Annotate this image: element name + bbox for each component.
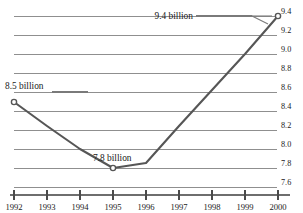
y-tick-label: 8.4 xyxy=(281,102,291,111)
y-tick-label: 8.2 xyxy=(281,121,291,130)
chart-canvas: 9.4 9.2 9.0 8.8 8.6 8.4 8.2 8.0 7.8 7.6 … xyxy=(0,0,303,213)
x-tick-label: 1998 xyxy=(203,202,220,212)
x-tick-label: 2000 xyxy=(269,202,286,212)
cropped-title-remnant xyxy=(0,0,303,2)
y-tick-label: 9.2 xyxy=(281,26,291,35)
y-tick-label: 9.4 xyxy=(281,7,291,16)
x-tick-label: 1994 xyxy=(71,202,89,212)
y-tick-label: 8.0 xyxy=(281,140,291,149)
annotation-minimum-value: 7.8 billion xyxy=(93,153,132,163)
y-tick-label: 8.8 xyxy=(281,64,291,73)
y-tick-label: 7.6 xyxy=(281,178,291,187)
x-axis xyxy=(10,190,290,200)
y-tick-label: 9.0 xyxy=(281,45,291,54)
gridlines xyxy=(14,16,277,187)
x-tick-label: 1997 xyxy=(170,202,188,212)
x-tick-label: 1999 xyxy=(236,202,253,212)
y-tick-label: 7.8 xyxy=(281,159,291,168)
x-tick-label: 1992 xyxy=(5,202,22,212)
x-tick-label: 1993 xyxy=(38,202,55,212)
x-tick-label: 1995 xyxy=(104,202,121,212)
data-marker-1995[interactable] xyxy=(110,165,115,170)
leader-line-end-diagonal xyxy=(252,16,268,24)
y-tick-label: 8.6 xyxy=(281,83,291,92)
y-axis-labels: 9.4 9.2 9.0 8.8 8.6 8.4 8.2 8.0 7.8 7.6 xyxy=(281,7,291,187)
x-axis-labels: 1992 1993 1994 1995 1996 1997 1998 1999 … xyxy=(5,202,286,212)
annotation-start-value: 8.5 billion xyxy=(5,81,44,91)
data-marker-2000[interactable] xyxy=(275,13,280,18)
line-chart: 9.4 9.2 9.0 8.8 8.6 8.4 8.2 8.0 7.8 7.6 … xyxy=(0,0,303,213)
annotation-end-value: 9.4 billion xyxy=(154,11,193,21)
data-marker-1992[interactable] xyxy=(11,99,16,104)
x-tick-label: 1996 xyxy=(137,202,155,212)
